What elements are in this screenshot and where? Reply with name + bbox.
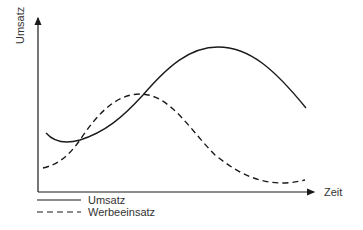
legend-label-werbeeinsatz: Werbeeinsatz — [88, 206, 155, 218]
umsatz-line — [46, 47, 306, 142]
legend-label-umsatz: Umsatz — [88, 194, 125, 206]
legend — [37, 200, 81, 212]
x-axis-label: Zeit — [324, 186, 342, 198]
chart-canvas — [0, 0, 363, 230]
y-axis-label: Umsatz — [14, 7, 26, 44]
